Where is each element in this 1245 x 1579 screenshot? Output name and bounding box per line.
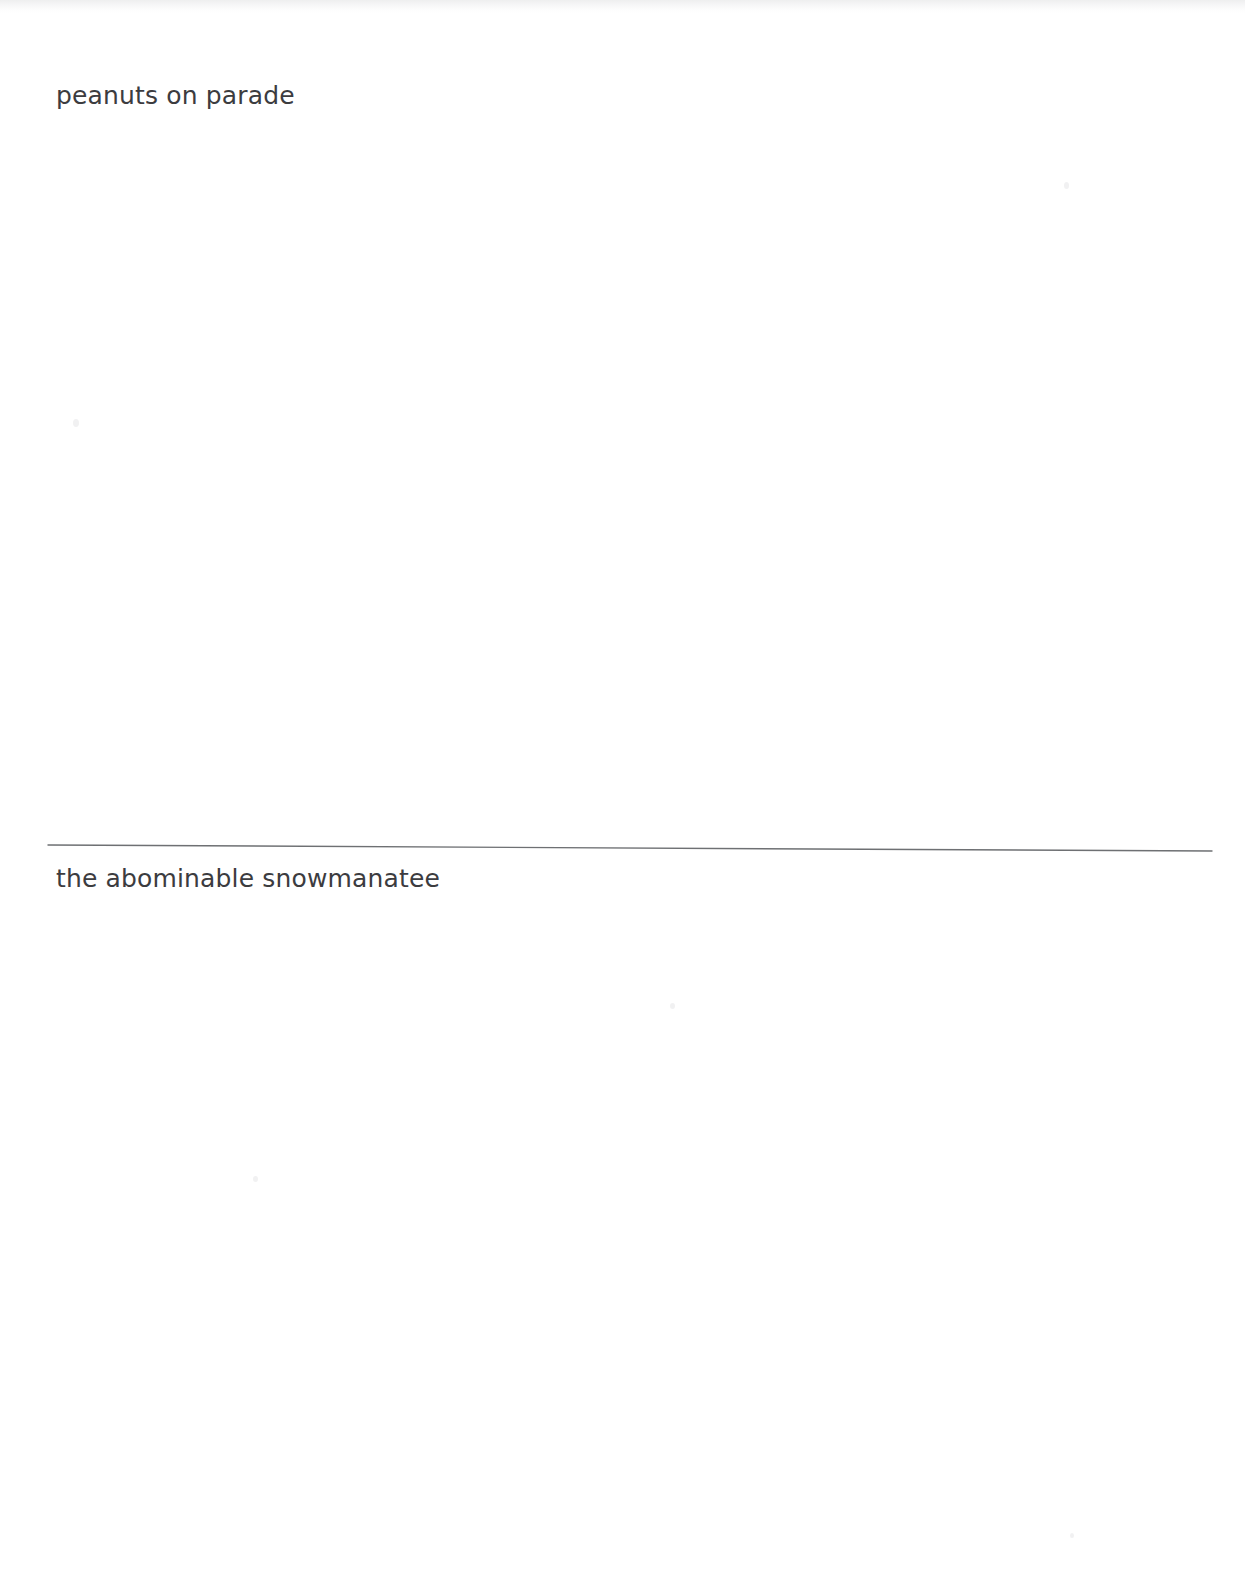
scan-speck — [670, 1003, 675, 1009]
scan-speck — [73, 419, 79, 427]
top-text-line: peanuts on parade — [56, 83, 295, 108]
scanner-edge-shadow — [0, 0, 1245, 14]
scan-speck — [253, 1176, 258, 1182]
divider-line — [48, 845, 1212, 851]
scan-speck — [1064, 182, 1069, 189]
scan-speck — [1070, 1533, 1074, 1538]
scanned-page: peanuts on parade the abominable snowman… — [0, 0, 1245, 1579]
bottom-text-line: the abominable snowmanatee — [56, 866, 440, 891]
